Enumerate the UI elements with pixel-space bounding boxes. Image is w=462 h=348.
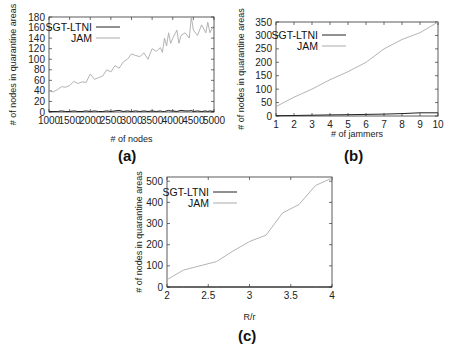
x-axis-label: # of jammers — [331, 129, 384, 139]
x-tick-label: 2.5 — [201, 290, 215, 301]
x-tick-label: 10 — [432, 119, 444, 130]
legend-label: JAM — [71, 32, 92, 44]
x-tick-label: 3 — [309, 119, 315, 130]
y-tick-label: 40 — [34, 85, 46, 96]
y-tick-label: 50 — [261, 97, 273, 108]
y-tick-label: 180 — [28, 12, 45, 23]
y-tick-label: 0 — [39, 107, 45, 118]
x-tick-label: 8 — [399, 119, 405, 130]
x-tick-label: 3000 — [120, 115, 143, 126]
chart-b: 12345678910050100150200250300350# of jam… — [236, 8, 444, 139]
x-tick-label: 3 — [247, 290, 253, 301]
y-tick-label: 100 — [146, 260, 163, 271]
x-tick-label: 3.5 — [284, 290, 298, 301]
x-tick-label: 1500 — [59, 115, 82, 126]
x-tick-label: 9 — [417, 119, 423, 130]
y-tick-label: 0 — [266, 111, 272, 122]
y-tick-label: 500 — [146, 176, 163, 187]
x-tick-label: 2000 — [79, 115, 102, 126]
x-tick-label: 4 — [329, 290, 335, 301]
y-tick-label: 300 — [255, 30, 272, 41]
x-tick-label: 4000 — [162, 115, 185, 126]
y-tick-label: 160 — [28, 22, 45, 33]
y-tick-label: 400 — [146, 197, 163, 208]
y-tick-label: 250 — [255, 43, 272, 54]
y-tick-label: 0 — [157, 282, 163, 293]
caption-b: (b) — [344, 147, 363, 164]
y-tick-label: 80 — [34, 64, 46, 75]
y-tick-label: 20 — [34, 96, 46, 107]
x-tick-label: 2500 — [100, 115, 123, 126]
x-axis-label: R/r — [244, 312, 256, 322]
y-tick-label: 100 — [255, 84, 272, 95]
series-line-sgt-ltni — [276, 113, 438, 116]
y-tick-label: 60 — [34, 75, 46, 86]
x-tick-label: 4500 — [182, 115, 205, 126]
y-tick-label: 100 — [28, 54, 45, 65]
legend-label: JAM — [188, 197, 209, 209]
y-tick-label: 140 — [28, 33, 45, 44]
y-tick-label: 150 — [255, 70, 272, 81]
legend-label: JAM — [297, 40, 318, 52]
caption-a: (a) — [118, 147, 136, 164]
chart-c: 22.533.540100200300400500R/r# of nodes i… — [134, 171, 335, 322]
caption-c: (c) — [238, 327, 256, 344]
y-axis-label: # of nodes in quarantine areas — [8, 3, 18, 125]
x-tick-label: 3500 — [141, 115, 164, 126]
x-tick-label: 5000 — [203, 115, 226, 126]
y-tick-label: 350 — [255, 17, 272, 28]
y-tick-label: 200 — [146, 239, 163, 250]
y-tick-label: 200 — [255, 57, 272, 68]
x-axis-label: # of nodes — [110, 134, 153, 144]
chart-a: 1000150020002500300035004000450050000204… — [8, 3, 226, 144]
x-tick-label: 1 — [273, 119, 279, 130]
figure-canvas: 1000150020002500300035004000450050000204… — [0, 0, 462, 348]
y-tick-label: 300 — [146, 218, 163, 229]
y-axis-label: # of nodes in quarantine areas — [134, 171, 144, 293]
y-axis-label: # of nodes in quarantine areas — [236, 8, 246, 130]
x-tick-label: 2 — [291, 119, 297, 130]
x-tick-label: 2 — [164, 290, 170, 301]
y-tick-label: 120 — [28, 43, 45, 54]
